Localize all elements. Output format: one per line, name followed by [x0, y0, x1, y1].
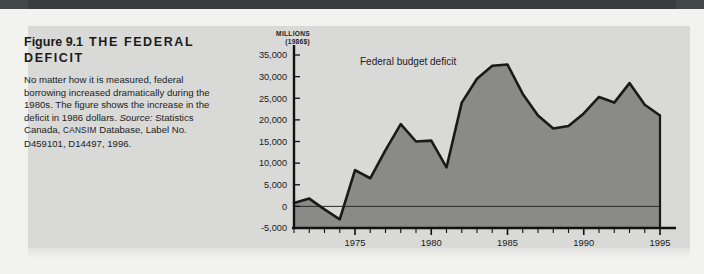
y-axis-tick-label: 15,000 [259, 137, 287, 147]
y-axis-unit-label: MILLIONS (1986$) [250, 30, 310, 46]
page-header-bar [0, 0, 704, 9]
figure-caption-text: No matter how it is measured, federal bo… [24, 74, 220, 151]
y-axis-tick-label: 5,000 [264, 180, 287, 190]
y-axis-tick-label: 25,000 [259, 94, 287, 104]
figure-page: Figure 9.1THE FEDERAL DEFICIT No matter … [0, 0, 704, 274]
caption-cansim: CANSIM [63, 126, 97, 135]
figure-number: Figure 9.1 [24, 35, 83, 49]
series-annotation-federal-budget-deficit: Federal budget deficit [360, 56, 456, 67]
area-fill [294, 65, 660, 228]
figure-title-line2: DEFICIT [24, 50, 220, 66]
figure-caption-block: Figure 9.1THE FEDERAL DEFICIT No matter … [24, 34, 220, 151]
x-axis-tick-label: 1980 [421, 237, 442, 246]
x-axis-tick-label: 1990 [573, 237, 594, 246]
y-axis-tick-label: 20,000 [259, 115, 287, 125]
figure-panel-shadow [28, 248, 690, 258]
y-axis-tick-label: -5,000 [261, 223, 287, 233]
deficit-chart: MILLIONS (1986$) Federal budget deficit … [236, 28, 686, 246]
y-axis-tick-label: 0 [282, 202, 287, 212]
x-axis-tick-label: 1985 [497, 237, 518, 246]
page-header-bar-inner [28, 0, 676, 9]
y-axis-unit-line1: MILLIONS [250, 30, 310, 38]
x-axis-tick-label: 1995 [650, 237, 671, 246]
figure-title-line1: THE FEDERAL [89, 35, 194, 49]
y-axis-unit-line2: (1986$) [250, 38, 310, 46]
caption-source-label: Source: [119, 112, 152, 123]
x-axis-tick-label: 1975 [345, 237, 366, 246]
chart-svg: 35,00030,00025,00020,00015,00010,0005,00… [236, 28, 686, 246]
y-axis-tick-label: 35,000 [259, 50, 287, 60]
y-axis-tick-label: 30,000 [259, 72, 287, 82]
y-axis-tick-label: 10,000 [259, 158, 287, 168]
figure-title: Figure 9.1THE FEDERAL DEFICIT [24, 34, 220, 66]
